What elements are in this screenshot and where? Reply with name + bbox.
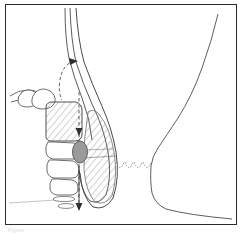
figure-root: Figure [0, 0, 242, 235]
scallop-marks [116, 162, 151, 168]
hatched-bowel-segment [42, 98, 88, 144]
gray-mass-oval [73, 141, 88, 163]
anatomical-diagram [0, 0, 242, 235]
small-ellipse-pair [53, 196, 75, 208]
caption-remnant: Figure [8, 227, 24, 233]
body-contour-right [151, 14, 232, 219]
